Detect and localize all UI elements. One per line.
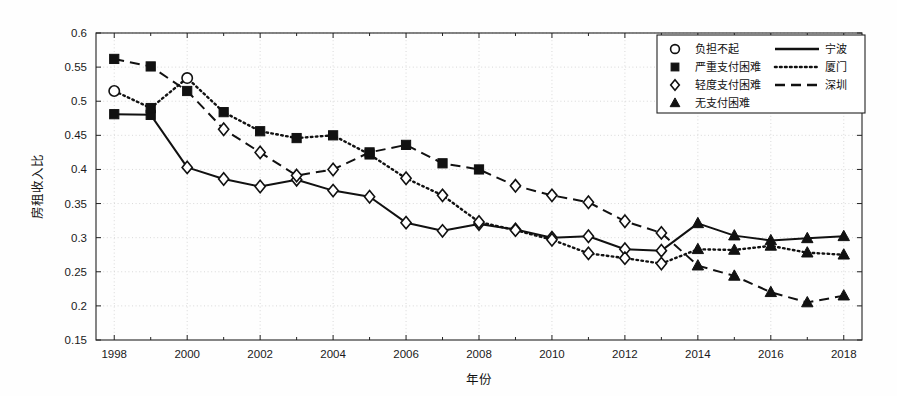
data-point-marker bbox=[401, 216, 411, 228]
data-point-marker bbox=[365, 148, 374, 157]
data-point-marker bbox=[110, 110, 119, 119]
legend-label-严重支付困难: 严重支付困难 bbox=[695, 60, 761, 73]
data-point-marker bbox=[437, 225, 447, 237]
legend-label-深圳: 深圳 bbox=[825, 79, 847, 91]
data-point-marker bbox=[620, 215, 630, 227]
legend-label-负担不起: 负担不起 bbox=[695, 42, 739, 55]
y-axis-tick-labels: 0.150.20.250.30.350.40.450.50.550.6 bbox=[65, 27, 88, 346]
x-tick-label: 2016 bbox=[758, 348, 784, 360]
x-tick-label: 2012 bbox=[612, 348, 638, 360]
data-point-marker bbox=[583, 247, 593, 259]
x-tick-label: 2002 bbox=[247, 348, 273, 360]
data-point-marker bbox=[182, 73, 192, 83]
data-point-marker bbox=[656, 257, 666, 269]
data-point-marker bbox=[292, 133, 301, 142]
x-tick-label: 2006 bbox=[393, 348, 419, 360]
y-axis-title: 房租收入比 bbox=[30, 154, 45, 219]
rent-income-ratio-line-chart: 0.150.20.250.30.350.40.450.50.550.6 1998… bbox=[0, 0, 897, 396]
legend-marker-circle-open bbox=[671, 45, 680, 54]
x-axis-title: 年份 bbox=[466, 373, 492, 387]
legend-label-宁波: 宁波 bbox=[825, 42, 847, 55]
data-point-marker bbox=[437, 189, 447, 201]
y-tick-label: 0.55 bbox=[65, 61, 87, 73]
x-tick-label: 2010 bbox=[539, 348, 565, 360]
data-point-marker bbox=[109, 86, 119, 96]
y-tick-label: 0.3 bbox=[71, 232, 87, 244]
data-point-marker bbox=[620, 252, 630, 264]
legend-label-轻度支付困难: 轻度支付困难 bbox=[695, 78, 761, 91]
data-point-marker bbox=[583, 196, 593, 208]
y-tick-label: 0.45 bbox=[65, 129, 87, 141]
data-point-marker bbox=[219, 173, 229, 185]
data-point-marker bbox=[510, 224, 520, 236]
data-point-marker bbox=[692, 217, 703, 227]
data-point-marker bbox=[656, 244, 666, 256]
data-point-marker bbox=[364, 191, 374, 203]
x-tick-label: 1998 bbox=[101, 348, 127, 360]
data-point-marker bbox=[328, 131, 337, 140]
data-point-marker bbox=[692, 260, 703, 270]
x-tick-label: 2018 bbox=[831, 348, 857, 360]
data-point-marker bbox=[328, 163, 338, 175]
data-point-marker bbox=[583, 230, 593, 242]
y-tick-label: 0.5 bbox=[71, 95, 87, 107]
y-tick-label: 0.25 bbox=[65, 266, 87, 278]
legend-label-厦门: 厦门 bbox=[825, 60, 847, 73]
data-point-marker bbox=[219, 108, 228, 117]
data-point-marker bbox=[838, 290, 849, 300]
y-tick-label: 0.6 bbox=[71, 27, 87, 39]
data-point-marker bbox=[510, 180, 520, 192]
y-tick-label: 0.2 bbox=[71, 300, 87, 312]
y-tick-label: 0.35 bbox=[65, 198, 87, 210]
data-point-marker bbox=[474, 165, 483, 174]
legend-marker-square-filled bbox=[671, 63, 679, 71]
data-point-marker bbox=[438, 159, 447, 168]
data-point-marker bbox=[401, 140, 410, 149]
data-point-marker bbox=[255, 180, 265, 192]
x-tick-label: 2004 bbox=[320, 348, 346, 360]
x-tick-label: 2000 bbox=[174, 348, 200, 360]
data-point-marker bbox=[328, 184, 338, 196]
data-point-marker bbox=[146, 62, 155, 71]
data-point-marker bbox=[547, 189, 557, 201]
x-tick-label: 2014 bbox=[685, 348, 711, 360]
data-point-marker bbox=[146, 103, 155, 112]
x-axis-tick-labels: 1998200020022004200620082010201220142016… bbox=[101, 348, 856, 360]
data-point-marker bbox=[401, 172, 411, 184]
data-point-marker bbox=[692, 243, 703, 253]
x-tick-label: 2008 bbox=[466, 348, 492, 360]
data-point-marker bbox=[838, 230, 849, 240]
legend-label-无支付困难: 无支付困难 bbox=[695, 97, 750, 109]
chart-figure: 0.150.20.250.30.350.40.450.50.550.6 1998… bbox=[0, 0, 897, 396]
data-point-marker bbox=[183, 86, 192, 95]
data-point-marker bbox=[256, 127, 265, 136]
data-point-marker bbox=[110, 54, 119, 63]
y-tick-label: 0.4 bbox=[71, 163, 88, 175]
data-point-marker bbox=[255, 146, 265, 158]
chart-legend: 负担不起严重支付困难轻度支付困难无支付困难宁波厦门深圳 bbox=[657, 35, 865, 113]
y-tick-label: 0.15 bbox=[65, 334, 87, 346]
